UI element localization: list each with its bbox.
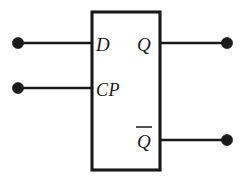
d-port-label: D <box>95 34 110 55</box>
d-input-terminal <box>12 37 23 48</box>
q-not-output-terminal <box>221 134 232 145</box>
q-not-port-label: Q <box>137 131 151 152</box>
q-port-label: Q <box>137 34 151 55</box>
cp-input-terminal <box>12 82 23 93</box>
d-flip-flop-diagram: D CP Q Q <box>0 0 250 179</box>
cp-port-label: CP <box>96 80 120 100</box>
logic-symbol-canvas: D CP Q Q <box>0 0 250 179</box>
q-output-terminal <box>221 37 232 48</box>
